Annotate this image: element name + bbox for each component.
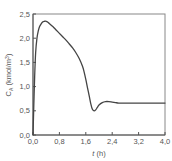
x-tick-label: 0,8 [54,137,64,146]
y-tick-label: 2,5 [20,10,30,19]
line-chart: 0,00,81,62,43,24,0 0,00,51,01,52,02,5 t … [0,0,172,161]
y-tick-label: 0,0 [20,131,30,140]
y-tick-label: 1,0 [20,82,30,91]
x-tick-label: 4,0 [160,137,170,146]
x-axis-label: t (h) [92,149,106,158]
y-axis-label-close: ) [4,53,13,56]
y-axis-label: CA (kmol/m3) [4,53,14,96]
y-tick-label: 1,5 [20,58,30,67]
x-axis-label-unit: (h) [94,149,106,158]
y-tick-label: 2,0 [20,34,30,43]
data-line [33,21,165,135]
x-axis-ticks: 0,00,81,62,43,24,0 [28,132,170,146]
y-axis-label-unit: (kmol/m [4,59,13,88]
x-tick-label: 2,4 [107,137,117,146]
axis-lines [33,14,165,135]
plot-frame [33,14,165,135]
x-tick-label: 1,6 [81,137,91,146]
x-tick-label: 3,2 [133,137,143,146]
y-tick-label: 0,5 [20,106,30,115]
